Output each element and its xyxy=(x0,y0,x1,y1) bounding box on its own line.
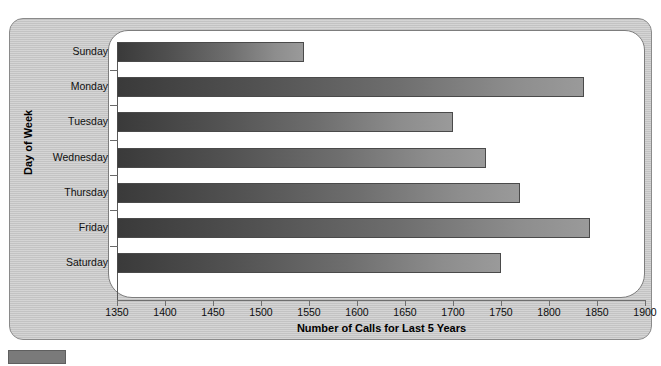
bar-monday xyxy=(117,77,584,97)
category-label-text: Saturday xyxy=(66,256,108,268)
bar-sunday xyxy=(117,42,304,62)
x-axis-tick-label: 1750 xyxy=(489,306,512,318)
x-axis-tick-label: 1550 xyxy=(297,306,320,318)
bar-tuesday xyxy=(117,112,453,132)
category-tick xyxy=(110,105,118,106)
category-label-text: Friday xyxy=(79,221,108,233)
category-tick xyxy=(110,210,118,211)
category-label-text: Wednesday xyxy=(53,151,108,163)
category-tick xyxy=(110,140,118,141)
caption-badge xyxy=(8,350,66,364)
category-tick xyxy=(110,70,118,71)
bar-friday xyxy=(117,218,590,238)
x-axis-tick-label: 1900 xyxy=(633,306,656,318)
category-label-text: Monday xyxy=(71,80,108,92)
y-axis-title: Day of Week xyxy=(22,110,34,175)
category-label-text: Thursday xyxy=(64,186,108,198)
x-axis-tick-label: 1400 xyxy=(153,306,176,318)
bar-saturday xyxy=(117,253,501,273)
x-axis-tick-label: 1850 xyxy=(585,306,608,318)
x-axis-line xyxy=(117,300,646,301)
category-tick xyxy=(110,175,118,176)
bar-thursday xyxy=(117,183,520,203)
x-axis-tick-label: 1350 xyxy=(105,306,128,318)
x-axis-tick-label: 1650 xyxy=(393,306,416,318)
bar-wednesday xyxy=(117,148,486,168)
x-axis-tick-label: 1500 xyxy=(249,306,272,318)
x-axis-tick-label: 1450 xyxy=(201,306,224,318)
caption-row xyxy=(0,348,661,366)
x-axis-tick-label: 1600 xyxy=(345,306,368,318)
x-axis-tick-label: 1800 xyxy=(537,306,560,318)
x-axis-tick-label: 1700 xyxy=(441,306,464,318)
category-label-text: Tuesday xyxy=(68,115,108,127)
category-label-text: Sunday xyxy=(72,45,108,57)
x-axis-title: Number of Calls for Last 5 Years xyxy=(117,322,646,334)
category-tick xyxy=(110,246,118,247)
